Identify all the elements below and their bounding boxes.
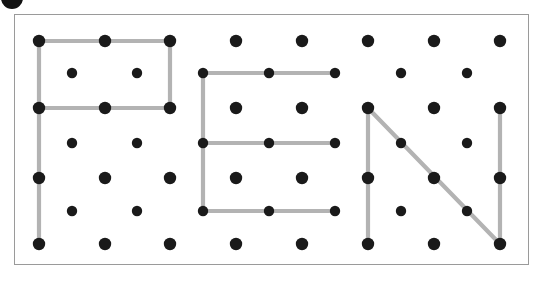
peg[interactable] <box>362 102 374 114</box>
peg[interactable] <box>494 238 506 250</box>
peg[interactable] <box>164 238 176 250</box>
peg[interactable] <box>67 206 77 216</box>
peg[interactable] <box>230 102 242 114</box>
peg[interactable] <box>198 138 208 148</box>
peg[interactable] <box>362 35 374 47</box>
peg[interactable] <box>33 238 45 250</box>
geoboard-canvas <box>0 0 539 282</box>
peg[interactable] <box>428 238 440 250</box>
peg[interactable] <box>99 35 111 47</box>
peg[interactable] <box>230 35 242 47</box>
peg[interactable] <box>362 172 374 184</box>
peg[interactable] <box>296 238 308 250</box>
peg[interactable] <box>164 35 176 47</box>
peg[interactable] <box>296 172 308 184</box>
peg[interactable] <box>264 206 274 216</box>
peg[interactable] <box>396 206 406 216</box>
peg[interactable] <box>132 68 142 78</box>
peg[interactable] <box>330 206 340 216</box>
peg[interactable] <box>462 138 472 148</box>
peg[interactable] <box>396 138 406 148</box>
peg[interactable] <box>428 102 440 114</box>
peg[interactable] <box>67 68 77 78</box>
peg[interactable] <box>33 102 45 114</box>
peg[interactable] <box>132 138 142 148</box>
peg[interactable] <box>230 172 242 184</box>
peg[interactable] <box>428 172 440 184</box>
peg[interactable] <box>462 68 472 78</box>
peg[interactable] <box>494 35 506 47</box>
peg[interactable] <box>99 172 111 184</box>
peg[interactable] <box>428 35 440 47</box>
peg[interactable] <box>99 102 111 114</box>
peg[interactable] <box>494 102 506 114</box>
peg[interactable] <box>132 206 142 216</box>
peg[interactable] <box>330 68 340 78</box>
peg[interactable] <box>33 35 45 47</box>
peg[interactable] <box>164 102 176 114</box>
peg[interactable] <box>462 206 472 216</box>
peg[interactable] <box>362 238 374 250</box>
peg[interactable] <box>330 138 340 148</box>
peg[interactable] <box>99 238 111 250</box>
peg[interactable] <box>296 102 308 114</box>
peg[interactable] <box>494 172 506 184</box>
peg[interactable] <box>164 172 176 184</box>
peg-layer <box>33 35 506 250</box>
peg[interactable] <box>198 68 208 78</box>
geoboard-layer <box>0 0 539 282</box>
peg[interactable] <box>67 138 77 148</box>
peg[interactable] <box>264 68 274 78</box>
peg[interactable] <box>198 206 208 216</box>
peg[interactable] <box>230 238 242 250</box>
peg[interactable] <box>33 172 45 184</box>
peg[interactable] <box>264 138 274 148</box>
peg[interactable] <box>296 35 308 47</box>
peg[interactable] <box>396 68 406 78</box>
